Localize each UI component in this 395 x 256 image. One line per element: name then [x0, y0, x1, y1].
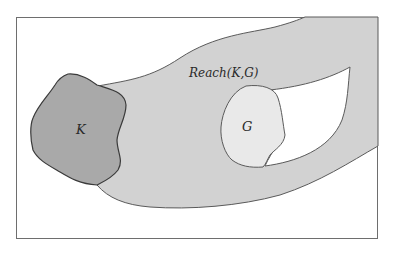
- label-g: G: [242, 119, 252, 134]
- reach-set-diagram: K G Reach(K,G): [0, 0, 395, 256]
- label-reach: Reach(K,G): [188, 66, 259, 80]
- label-k: K: [75, 122, 87, 137]
